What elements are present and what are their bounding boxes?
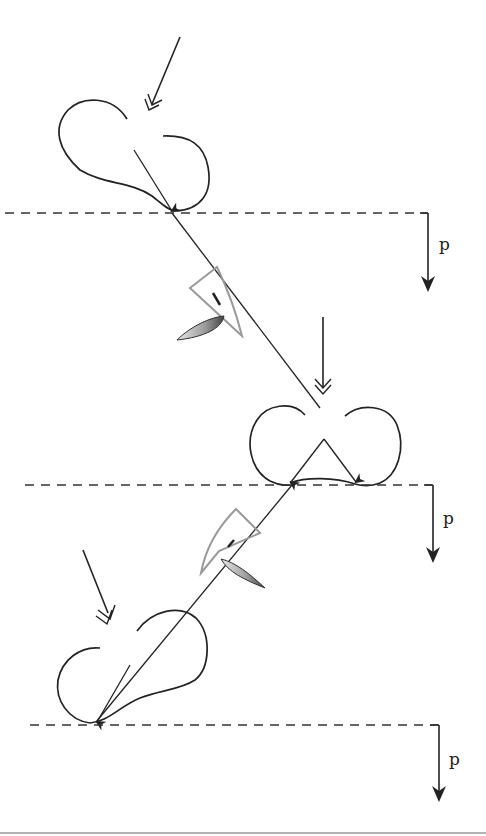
force-label-2: p — [443, 508, 454, 528]
incident-arrow-3 — [83, 550, 115, 624]
impulse-arrow-2b — [324, 439, 356, 482]
trajectory-line-1 — [172, 213, 320, 408]
kidney-body-2-bottom — [290, 479, 355, 484]
stage-1: p — [5, 37, 450, 292]
trajectory-line-2 — [96, 485, 292, 722]
stage-2: p — [25, 317, 454, 563]
impulse-arrow-2a — [291, 439, 324, 482]
force-label-1: p — [439, 234, 450, 254]
transition-2 — [96, 485, 292, 722]
wedge-tick-1 — [213, 293, 220, 305]
crescent-1 — [177, 316, 224, 340]
force-label-3: p — [449, 749, 460, 769]
kidney-body-3-right — [90, 610, 207, 723]
trajectory-arrow-1 — [134, 150, 172, 211]
kidney-body-3-left — [58, 648, 100, 723]
crescent-2 — [221, 559, 265, 588]
transition-1 — [172, 213, 320, 408]
force-arrow-1 — [420, 213, 435, 292]
kidney-body-2-left — [250, 406, 305, 485]
incident-arrow-1 — [145, 37, 180, 110]
stage-3: p — [30, 550, 460, 802]
impact-diagram: p p — [0, 0, 486, 836]
kidney-body-1 — [59, 100, 209, 211]
incident-arrow-2 — [315, 317, 331, 394]
force-arrow-2 — [424, 485, 440, 563]
kidney-body-2-right — [345, 407, 401, 485]
force-arrow-3 — [430, 725, 446, 802]
